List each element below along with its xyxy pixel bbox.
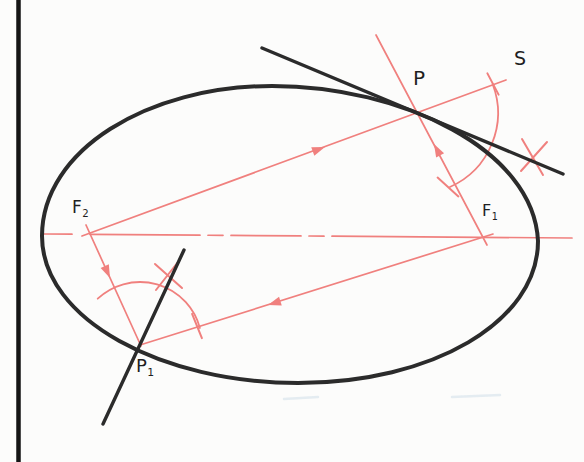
paper-smudge-right [452, 395, 500, 397]
label-p: P [413, 68, 426, 88]
focal-radius-f2-p1 [86, 225, 141, 346]
label-p1-base: P [136, 355, 147, 376]
label-f2-base: F [72, 197, 82, 217]
ray-arrow-f2-to-p1 [101, 264, 115, 280]
label-s-text: S [514, 47, 527, 69]
ray-arrow-f2-to-p [311, 143, 326, 156]
label-p-text: P [413, 66, 426, 90]
label-f1-sub: 1 [492, 211, 499, 222]
ray-arrow-f1-to-p1 [267, 297, 282, 309]
label-f2: F2 [72, 199, 89, 219]
arc-tick-at-pf1 [438, 178, 459, 197]
label-f1-base: F [482, 201, 492, 220]
label-p1: P1 [136, 357, 155, 379]
label-f2-sub: 2 [82, 208, 89, 219]
ellipse-tangent-construction-drawing [0, 0, 584, 462]
ray-arrow-f1-to-p [430, 142, 444, 158]
focal-radius-f2-p-s [82, 80, 506, 236]
label-f1: F1 [482, 203, 498, 221]
paper-smudge-left [284, 397, 318, 399]
label-p1-sub: 1 [147, 366, 154, 379]
angle-arc-at-p1 [98, 282, 200, 328]
focal-radius-f1-p1 [140, 234, 493, 345]
label-s: S [514, 49, 527, 68]
figure-canvas: P S F2 F1 P1 [0, 0, 584, 462]
